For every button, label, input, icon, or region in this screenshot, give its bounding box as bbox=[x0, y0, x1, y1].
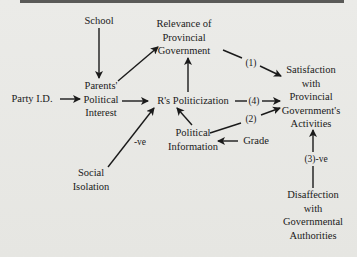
node-grade-label: Grade bbox=[243, 135, 269, 146]
node-rs-politicization: R's Politicization bbox=[157, 94, 229, 108]
node-line: Information bbox=[168, 140, 218, 154]
node-school: School bbox=[84, 14, 113, 28]
node-line: Government's bbox=[282, 104, 340, 118]
node-line: Interest bbox=[84, 106, 119, 120]
node-party-id-label: Party I.D. bbox=[11, 93, 52, 104]
node-line: Political bbox=[84, 93, 119, 107]
node-line: Political bbox=[168, 126, 218, 140]
node-line: with bbox=[282, 77, 340, 91]
node-satisfaction: Satisfaction with Provincial Government'… bbox=[282, 63, 340, 131]
node-line: Governmental bbox=[283, 215, 343, 229]
arrow-path2-to-satisfaction bbox=[261, 108, 280, 115]
node-social-isolation: Social Isolation bbox=[73, 166, 110, 193]
node-line: Provincial bbox=[156, 31, 211, 45]
node-line: Activities bbox=[282, 117, 340, 131]
node-line: Provincial bbox=[282, 90, 340, 104]
edge-label-path1: (1) bbox=[245, 58, 256, 69]
node-line: Authorities bbox=[283, 229, 343, 243]
node-line: Disaffection bbox=[283, 188, 343, 202]
node-line: Isolation bbox=[73, 180, 110, 194]
node-line: Government bbox=[156, 44, 211, 58]
node-line: Social bbox=[73, 166, 110, 180]
node-political-information: Political Information bbox=[168, 126, 218, 153]
node-line: Parents' bbox=[84, 79, 119, 93]
node-disaffection: Disaffection with Governmental Authoriti… bbox=[283, 188, 343, 242]
line-relevance-path1 bbox=[223, 50, 242, 58]
edge-label-path4: (4) bbox=[248, 96, 259, 107]
node-school-label: School bbox=[84, 15, 113, 26]
node-line: Relevance of bbox=[156, 17, 211, 31]
arrow-path1-to-satisfaction bbox=[260, 66, 281, 76]
edge-label-social-negative: -ve bbox=[134, 137, 146, 148]
path-diagram: School Party I.D. Parents' Political Int… bbox=[0, 0, 357, 257]
node-rs-politicization-label: R's Politicization bbox=[157, 95, 229, 106]
node-parents-political-interest: Parents' Political Interest bbox=[84, 79, 119, 120]
arrow-parents-to-relevance bbox=[118, 47, 158, 81]
node-line: Satisfaction bbox=[282, 63, 340, 77]
arrow-info-to-politicization bbox=[177, 108, 192, 125]
edge-label-path2: (2) bbox=[245, 114, 256, 125]
node-party-id: Party I.D. bbox=[11, 92, 52, 106]
node-line: with bbox=[283, 202, 343, 216]
node-relevance-provincial-government: Relevance of Provincial Government bbox=[156, 17, 211, 58]
node-grade: Grade bbox=[243, 134, 269, 148]
edge-label-path3: (3)-ve bbox=[304, 154, 327, 165]
